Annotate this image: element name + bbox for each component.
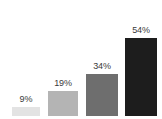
bar-rect-2[interactable] [86, 74, 118, 116]
bar-rect-1[interactable] [48, 91, 78, 116]
bar-group-2[interactable]: 34% [86, 61, 118, 116]
plot-area: 9% 19% 34% 54% [0, 0, 162, 119]
bar-rect-3[interactable] [125, 38, 157, 116]
bar-chart: 9% 19% 34% 54% [0, 0, 162, 119]
bar-group-0[interactable]: 9% [12, 94, 40, 116]
bar-rect-0[interactable] [12, 107, 40, 116]
bar-label-2: 34% [93, 61, 111, 72]
bar-label-0: 9% [20, 94, 33, 105]
bar-label-3: 54% [132, 25, 150, 36]
bar-group-3[interactable]: 54% [125, 25, 157, 116]
bar-label-1: 19% [54, 78, 72, 89]
bar-group-1[interactable]: 19% [48, 78, 78, 116]
